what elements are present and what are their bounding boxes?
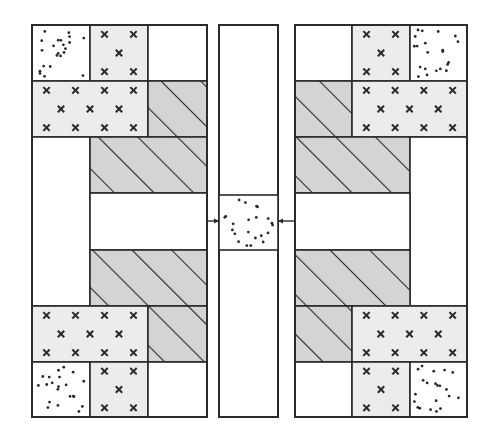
cell-blank bbox=[295, 362, 352, 417]
cell-blank bbox=[148, 362, 207, 417]
cell-blank bbox=[148, 25, 207, 81]
cell-xmarks bbox=[352, 25, 410, 81]
cell-xmarks bbox=[32, 306, 148, 362]
cell-hatch bbox=[148, 81, 207, 137]
cell-dots bbox=[410, 362, 467, 417]
cell-hatch bbox=[90, 250, 207, 306]
cell-xmarks bbox=[352, 81, 467, 137]
cell-dots bbox=[410, 25, 467, 81]
diagram-canvas: Symmetric block diagram with central col… bbox=[0, 0, 498, 443]
cell-hatch bbox=[295, 250, 410, 306]
cell-dots bbox=[32, 25, 90, 81]
cell-blank bbox=[295, 25, 352, 81]
right-block bbox=[295, 25, 467, 417]
cell-xmarks bbox=[352, 306, 467, 362]
left-block bbox=[32, 25, 207, 417]
cell-hatch bbox=[295, 81, 352, 137]
cell-xmarks bbox=[32, 81, 148, 137]
block-diagram bbox=[0, 0, 498, 443]
cell-hatch bbox=[148, 306, 207, 362]
right-arrow-icon bbox=[278, 219, 295, 224]
cell-dots bbox=[32, 362, 90, 417]
cell-dots bbox=[219, 195, 278, 250]
center-column bbox=[219, 25, 278, 417]
cell-blank bbox=[410, 137, 467, 306]
cell-hatch bbox=[295, 306, 352, 362]
cell-xmarks bbox=[90, 362, 148, 417]
cell-blank bbox=[32, 137, 90, 306]
cell-xmarks bbox=[352, 362, 410, 417]
cell-hatch bbox=[90, 137, 207, 193]
cell-blank bbox=[90, 193, 207, 250]
left-arrow-icon bbox=[207, 219, 219, 224]
cell-hatch bbox=[295, 137, 410, 193]
cell-blank bbox=[295, 193, 410, 250]
cell-xmarks bbox=[90, 25, 148, 81]
